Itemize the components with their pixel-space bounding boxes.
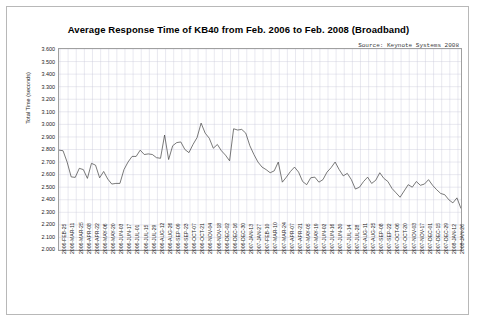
- x-tick-label: 2006-NOV-04: [207, 223, 213, 254]
- x-tick-label: 2006-SEP-23: [183, 223, 189, 254]
- x-tick-label: 2006-JUL-01: [134, 225, 140, 254]
- x-tick-label: 2007-MAR-10: [272, 222, 278, 254]
- line-chart-svg: [59, 49, 461, 250]
- x-tick-label: 2007-AUG-25: [370, 223, 376, 254]
- x-tick-label: 2006-SEP-09: [175, 223, 181, 254]
- x-tick-label: 2007-OCT-06: [394, 223, 400, 254]
- x-tick-label: 2007-FEB-10: [264, 224, 270, 254]
- y-tick-label: 2.500: [13, 184, 55, 190]
- x-tick-label: 2006-NOV-18: [216, 223, 222, 254]
- plot-area: [58, 48, 462, 251]
- y-tick-label: 2.700: [13, 159, 55, 165]
- y-tick-label: 2.000: [13, 246, 55, 252]
- x-tick-label: 2006-APR-08: [86, 223, 92, 254]
- x-tick-label: 2007-SEP-22: [386, 223, 392, 254]
- x-tick-label: 2007-OCT-20: [402, 223, 408, 254]
- x-tick-label: 2007-MAY-05: [305, 223, 311, 254]
- y-tick-label: 3.100: [13, 109, 55, 115]
- x-tick-label: 2007-DEC-29: [443, 223, 449, 254]
- x-tick-label: 2007-JAN-13: [248, 224, 254, 254]
- x-tick-label: 2006-MAY-20: [110, 223, 116, 254]
- x-tick-label: 2007-MAR-24: [281, 222, 287, 254]
- y-tick-label: 3.300: [13, 84, 55, 90]
- x-tick-label: 2007-JAN-27: [256, 224, 262, 254]
- x-tick-label: 2006-OCT-21: [199, 223, 205, 254]
- x-tick-label: 2007-JUN-30: [337, 224, 343, 254]
- x-tick-label: 2006-DEC-02: [224, 223, 230, 254]
- response-time-series-line: [59, 123, 461, 208]
- x-tick-label: 2006-MAR-11: [69, 223, 75, 254]
- x-tick-label: 2008-JAN-12: [451, 224, 457, 254]
- x-tick-label: 2007-AUG-11: [362, 223, 368, 254]
- y-tick-label: 3.200: [13, 96, 55, 102]
- x-tick-label: 2006-DEC-30: [240, 223, 246, 254]
- y-tick-label: 3.600: [13, 46, 55, 52]
- y-tick-label: 2.100: [13, 234, 55, 240]
- x-tick-label: 2006-JUN-03: [118, 224, 124, 254]
- x-tick-label: 2007-APR-21: [297, 223, 303, 254]
- y-tick-label: 2.800: [13, 146, 55, 152]
- y-tick-label: 2.900: [13, 134, 55, 140]
- y-tick-label: 2.400: [13, 196, 55, 202]
- y-tick-label: 3.000: [13, 121, 55, 127]
- x-tick-label: 2006-APR-22: [94, 223, 100, 254]
- x-tick-label: 2006-AUG-12: [159, 223, 165, 254]
- y-tick-label: 2.300: [13, 209, 55, 215]
- x-tick-label: 2007-NOV-17: [419, 223, 425, 254]
- x-tick-label: 2006-MAY-06: [102, 223, 108, 254]
- x-tick-label: 2007-JUL-14: [346, 225, 352, 254]
- x-tick-label: 2008-JAN-26: [459, 224, 465, 254]
- x-tick-label: 2006-JUN-17: [126, 224, 132, 254]
- x-tick-label: 2006-JUL-29: [151, 225, 157, 254]
- x-tick-label: 2006-AUG-26: [167, 223, 173, 254]
- chart-title: Average Response Time of KB40 from Feb. …: [7, 24, 470, 35]
- x-tick-label: 2007-JUL-28: [354, 225, 360, 254]
- x-tick-label: 2007-APR-07: [289, 223, 295, 254]
- y-tick-label: 2.200: [13, 221, 55, 227]
- x-tick-label: 2006-OCT-07: [191, 223, 197, 254]
- y-tick-label: 2.600: [13, 171, 55, 177]
- horizontal-gridlines: [59, 49, 461, 250]
- y-tick-label: 3.400: [13, 71, 55, 77]
- x-tick-label: 2007-DEC-15: [435, 223, 441, 254]
- x-tick-label: 2007-NOV-03: [411, 223, 417, 254]
- x-tick-label: 2007-DEC-01: [427, 223, 433, 254]
- x-tick-label: 2006-DEC-16: [232, 223, 238, 254]
- y-axis-ticks: 3.6003.5003.4003.3003.2003.1003.0002.900…: [10, 48, 55, 251]
- x-tick-label: 2006-FEB-25: [61, 224, 67, 254]
- x-tick-label: 2007-JUN-02: [321, 224, 327, 254]
- x-tick-label: 2007-SEP-08: [378, 223, 384, 254]
- x-tick-label: 2007-MAY-19: [313, 223, 319, 254]
- x-axis-ticks: 2006-FEB-252006-MAR-112006-MAR-252006-AP…: [58, 253, 462, 315]
- x-tick-label: 2006-JUL-15: [143, 225, 149, 254]
- x-tick-label: 2006-MAR-25: [78, 222, 84, 254]
- y-tick-label: 3.500: [13, 59, 55, 65]
- chart-container: Average Response Time of KB40 from Feb. …: [6, 6, 469, 315]
- x-tick-label: 2007-JUN-16: [329, 224, 335, 254]
